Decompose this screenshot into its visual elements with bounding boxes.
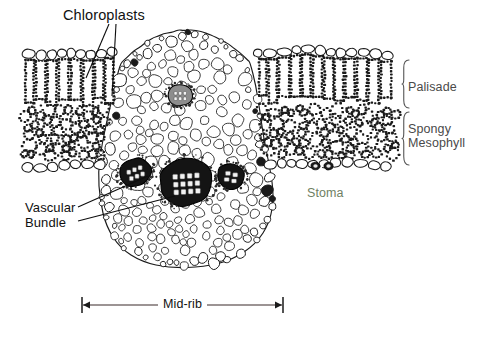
label-chloroplasts: Chloroplasts <box>63 7 145 23</box>
label-palisade: Palisade <box>408 80 457 94</box>
label-vascular-bundle: Vascular Bundle <box>25 201 75 230</box>
leaf-diagram-svg <box>0 0 491 337</box>
label-spongy-mesophyll: Spongy Mesophyll <box>408 122 465 150</box>
label-stoma: Stoma <box>307 186 344 200</box>
midrib-parenchyma-group <box>95 29 276 270</box>
leaf-cross-section-figure: Chloroplasts Palisade Spongy Mesophyll S… <box>0 0 491 337</box>
